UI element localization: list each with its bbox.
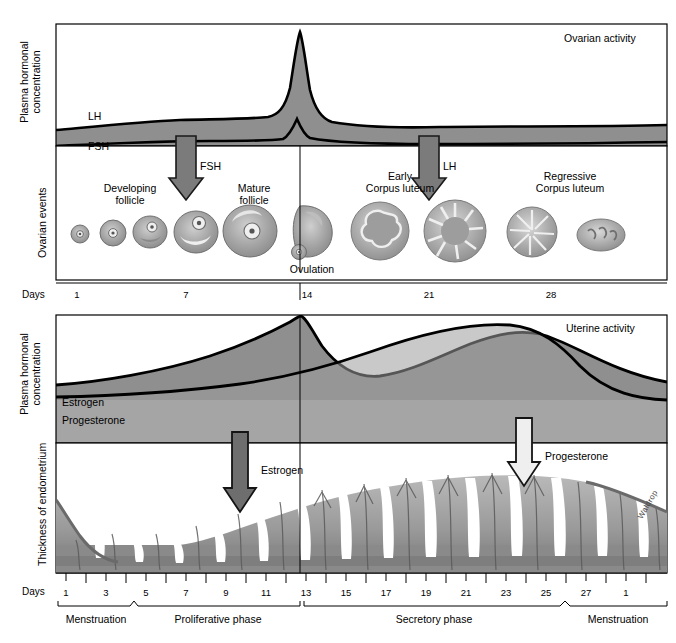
- phase-label-secretory: Secretory phase: [396, 613, 472, 625]
- bottom-day-tick: 25: [541, 587, 552, 598]
- middle-day-tick: 1: [74, 289, 79, 300]
- ovarian-yaxis-label: Plasma hormonal concentration: [18, 22, 42, 142]
- lh-curve-label: LH: [88, 110, 101, 122]
- uterine-yaxis-line1: Plasma hormonal: [18, 333, 30, 415]
- phase-label-proliferative: Proliferative phase: [175, 613, 262, 625]
- bottom-days-word: Days: [22, 586, 45, 597]
- progesterone-arrow-label: Progesterone: [545, 450, 608, 462]
- phase-label-menstruation-end: Menstruation: [588, 613, 649, 625]
- ovarian-yaxis-line2: concentration: [30, 50, 42, 113]
- bottom-day-tick: 5: [143, 587, 148, 598]
- middle-day-tick: 14: [302, 289, 313, 300]
- phase-label-menstruation-start: Menstruation: [66, 613, 127, 625]
- fsh-curve-label: FSH: [88, 140, 109, 152]
- bottom-axis-ticks: [56, 573, 667, 583]
- estrogen-arrow-label: Estrogen: [261, 464, 303, 476]
- uterine-hormone-curves: [56, 316, 667, 443]
- menstrual-cycle-figure: Plasma hormonal concentration Ovarian ac…: [0, 0, 676, 643]
- middle-day-tick: 21: [424, 289, 435, 300]
- developing-follicle-label: Developing follicle: [104, 182, 157, 206]
- ovarian-activity-title: Ovarian activity: [564, 32, 636, 44]
- middle-days-word: Days: [22, 289, 45, 300]
- fsh-arrow-label: FSH: [200, 160, 221, 172]
- bottom-day-tick: 21: [461, 587, 472, 598]
- ovulation-label: Ovulation: [290, 263, 334, 275]
- endometrium-yaxis-label: Thickness of endometrium: [36, 443, 48, 566]
- bottom-day-tick: 3: [103, 587, 108, 598]
- regressive-corpus-luteum-label: Regressive Corpus luteum: [536, 170, 604, 194]
- middle-day-tick: 28: [546, 289, 557, 300]
- ovarian-events-yaxis-label: Ovarian events: [36, 187, 48, 258]
- bottom-day-tick: 23: [501, 587, 512, 598]
- bottom-day-tick: 17: [381, 587, 392, 598]
- lh-arrow-label: LH: [443, 160, 456, 172]
- uterine-activity-title: Uterine activity: [566, 322, 635, 334]
- bottom-day-tick: 15: [341, 587, 352, 598]
- bottom-day-tick: 11: [261, 587, 271, 598]
- uterine-yaxis-line2: concentration: [30, 342, 42, 405]
- bottom-day-tick: 13: [301, 587, 312, 598]
- bottom-day-tick: 19: [421, 587, 432, 598]
- ovarian-yaxis-line1: Plasma hormonal: [18, 41, 30, 123]
- bottom-day-tick: 1: [623, 587, 628, 598]
- estrogen-curve-label: Estrogen: [62, 396, 104, 408]
- bottom-day-tick: 27: [581, 587, 592, 598]
- progesterone-curve-label: Progesterone: [62, 414, 125, 426]
- bottom-day-tick: 7: [183, 587, 188, 598]
- ovarian-hormone-curves: [56, 32, 667, 152]
- uterine-yaxis-label: Plasma hormonal concentration: [18, 314, 42, 434]
- early-corpus-luteum-label: Early Corpus luteum: [366, 170, 434, 194]
- mature-follicle-label: Mature follicle: [238, 182, 271, 206]
- bottom-day-tick: 1: [63, 587, 68, 598]
- middle-day-tick: 7: [183, 289, 188, 300]
- bottom-day-tick: 9: [223, 587, 228, 598]
- phase-brackets: [58, 601, 667, 606]
